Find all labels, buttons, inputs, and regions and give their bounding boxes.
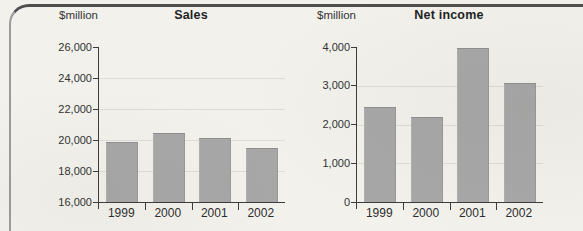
plot-area [98, 47, 285, 203]
chart-title: Net income [356, 8, 542, 22]
y-tick-label: 22,000 [54, 103, 92, 116]
x-axis-label-1999: 1999 [98, 206, 145, 220]
bar-2000 [153, 133, 185, 202]
chart-net-income: $million Net income 01,0002,0003,0004,00… [312, 0, 546, 231]
x-axis-label-2000: 2000 [145, 206, 192, 220]
gridline [99, 140, 285, 141]
x-axis-labels: 1999200020012002 [356, 206, 542, 220]
bar-1999 [364, 107, 396, 202]
chart-title: Sales [98, 8, 284, 22]
x-axis-label-2001: 2001 [449, 206, 496, 220]
y-tick-mark [351, 47, 357, 48]
x-axis-labels: 1999200020012002 [98, 206, 284, 220]
chart-sales: $million Sales 16,00018,00020,00022,0002… [54, 0, 288, 231]
y-tick-mark [93, 202, 99, 203]
bar-2001 [457, 48, 489, 202]
y-tick-label: 1,000 [312, 157, 350, 170]
y-tick-label: 0 [312, 196, 350, 209]
y-tick-label: 2,000 [312, 118, 350, 131]
x-axis-label-2001: 2001 [191, 206, 238, 220]
y-tick-label: 4,000 [312, 41, 350, 54]
y-tick-mark [93, 47, 99, 48]
bar-2002 [504, 83, 536, 202]
y-axis-unit-label: $million [317, 9, 356, 21]
y-axis-tick-labels: 16,00018,00020,00022,00024,00026,000 [54, 47, 94, 202]
y-tick-mark [351, 202, 357, 203]
y-tick-label: 3,000 [312, 79, 350, 92]
y-axis-unit-label: $million [59, 9, 98, 21]
y-tick-label: 20,000 [54, 134, 92, 147]
plot-area [356, 47, 543, 203]
y-tick-label: 24,000 [54, 72, 92, 85]
y-tick-label: 18,000 [54, 165, 92, 178]
gridline [99, 78, 285, 79]
x-axis-label-1999: 1999 [356, 206, 403, 220]
bar-2002 [246, 148, 278, 202]
gridline [99, 109, 285, 110]
x-axis-label-2002: 2002 [238, 206, 285, 220]
y-tick-label: 16,000 [54, 196, 92, 209]
y-tick-label: 26,000 [54, 41, 92, 54]
bar-2001 [199, 138, 231, 203]
y-axis-tick-labels: 01,0002,0003,0004,000 [312, 47, 352, 202]
bar-1999 [106, 142, 138, 202]
bar-2000 [411, 117, 443, 202]
x-axis-label-2000: 2000 [403, 206, 450, 220]
x-axis-label-2002: 2002 [496, 206, 543, 220]
